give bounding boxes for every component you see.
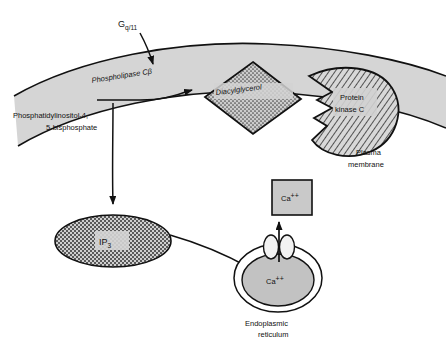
signal-transduction-diagram: Gq/11 Phospholipase Cβ Phosphatidylinosi… bbox=[0, 0, 446, 342]
er-label-line2: reticulum bbox=[258, 330, 288, 339]
g-protein-label: Gq/11 bbox=[118, 19, 138, 32]
ip3-subscript: 3 bbox=[108, 242, 112, 249]
plasma-membrane-label-line2: membrane bbox=[348, 160, 384, 169]
protein-kinase-c-shape: Protein kinase C bbox=[309, 68, 398, 156]
diagram-canvas: Gq/11 Phospholipase Cβ Phosphatidylinosi… bbox=[0, 0, 446, 342]
er-calcium-superscript: ++ bbox=[276, 275, 284, 282]
pip2-label-line2: 5-bisphosphate bbox=[46, 123, 97, 132]
g-protein-base: G bbox=[118, 19, 125, 29]
calcium-box: Ca++ bbox=[272, 180, 312, 215]
protein-kinase-label-line2: kinase C bbox=[335, 105, 365, 114]
er-label-line1: Endoplasmic bbox=[245, 319, 288, 328]
plasma-membrane-label-line1: Plasma bbox=[356, 148, 382, 157]
er-channel-subunit-right bbox=[280, 235, 295, 259]
endoplasmic-reticulum: Ca++ bbox=[234, 235, 322, 312]
g-protein-subscript: q/11 bbox=[125, 24, 138, 32]
er-channel-subunit-left bbox=[264, 235, 279, 259]
protein-kinase-label-line1: Protein bbox=[340, 93, 364, 102]
ip3-base: IP bbox=[99, 237, 108, 247]
pip2-label-line1: Phosphatidylinositol-4, bbox=[13, 111, 88, 120]
calcium-box-superscript: ++ bbox=[291, 192, 299, 199]
ip3-shape: IP3 bbox=[55, 215, 171, 267]
